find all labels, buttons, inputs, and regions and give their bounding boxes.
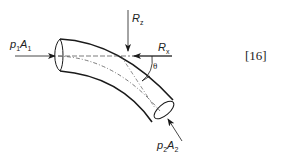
pipe-bottom-edge xyxy=(60,71,152,122)
equation-number: [16] xyxy=(245,48,267,64)
outlet-force-arrow xyxy=(168,119,182,141)
outlet-opening xyxy=(151,98,176,122)
angle-label: θ xyxy=(153,61,157,71)
inlet-opening xyxy=(55,39,63,71)
outlet-force-label: p2A2 xyxy=(157,139,178,153)
inlet-force-label: p1A1 xyxy=(10,38,31,52)
angle-line xyxy=(121,56,155,108)
angle-arc xyxy=(142,56,152,81)
reaction-x-label: Rx xyxy=(158,41,169,55)
reaction-z-label: Rz xyxy=(132,12,143,26)
